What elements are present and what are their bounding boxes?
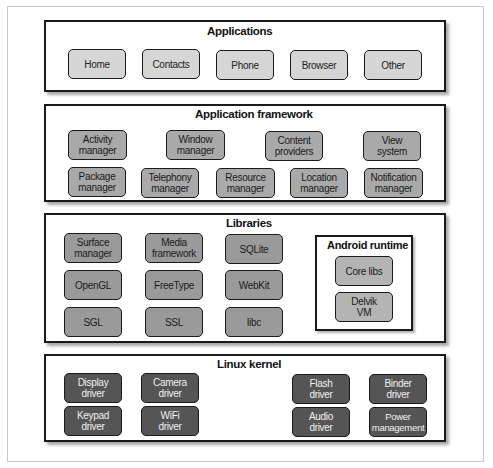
- ssl-box: SSL: [145, 307, 203, 337]
- binder-driver-box: Binder driver: [369, 374, 427, 404]
- window-manager-box: Window manager: [166, 130, 225, 160]
- surface-manager-box: Surface manager: [64, 233, 122, 263]
- resource-manager-box: Resource manager: [216, 168, 275, 198]
- audio-driver-box: Audio driver: [292, 407, 350, 437]
- application-framework-layer-title: Application framework: [195, 108, 313, 120]
- freetype-box: FreeType: [145, 270, 203, 300]
- home-app-box: Home: [68, 49, 126, 79]
- package-manager-box: Package manager: [68, 167, 126, 197]
- contacts-app-box: Contacts: [142, 49, 200, 79]
- wifi-driver-box: WiFi driver: [141, 406, 199, 436]
- linux-kernel-layer-title: Linux kernel: [217, 358, 281, 370]
- other-app-box: Other: [364, 50, 422, 80]
- phone-app-box: Phone: [216, 50, 274, 80]
- webkit-box: WebKit: [225, 270, 283, 300]
- browser-app-box: Browser: [290, 50, 348, 80]
- libraries-layer-title: Libraries: [226, 217, 272, 229]
- core-libs-box: Core libs: [335, 256, 393, 286]
- delvik-vm-box: Delvik VM: [335, 292, 393, 322]
- sqlite-box: SQLite: [225, 234, 283, 264]
- applications-layer-title: Applications: [207, 25, 272, 37]
- display-driver-box: Display driver: [64, 373, 122, 403]
- flash-driver-box: Flash driver: [292, 374, 350, 404]
- android-runtime-title: Android runtime: [327, 239, 408, 251]
- content-providers-box: Content providers: [265, 131, 323, 161]
- camera-driver-box: Camera driver: [141, 373, 199, 403]
- libc-box: libc: [225, 307, 283, 337]
- keypad-driver-box: Keypad driver: [64, 406, 122, 436]
- opengl-box: OpenGL: [64, 270, 122, 300]
- notification-manager-box: Notification manager: [364, 168, 423, 198]
- telephony-manager-box: Telephony manager: [141, 168, 199, 198]
- location-manager-box: Location manager: [290, 168, 348, 198]
- power-management-box: Power management: [369, 407, 427, 437]
- sgl-box: SGL: [64, 307, 122, 337]
- view-system-box: View system: [363, 131, 421, 161]
- media-framework-box: Media framework: [145, 233, 203, 263]
- activity-manager-box: Activity manager: [68, 130, 127, 160]
